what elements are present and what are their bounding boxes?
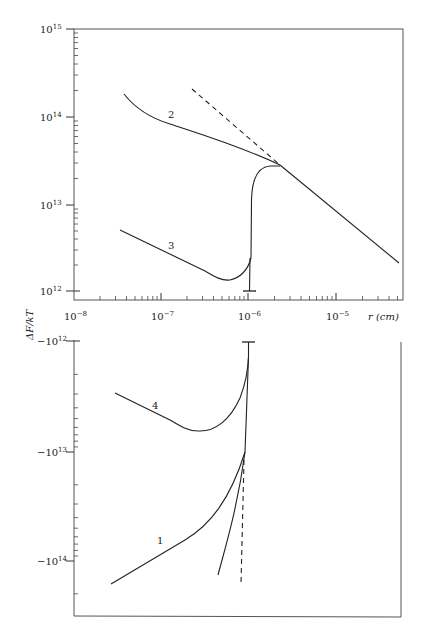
curve-label-1: 1 bbox=[157, 535, 163, 546]
curve-2 bbox=[124, 94, 280, 165]
lower-curves bbox=[111, 342, 255, 584]
x-tick-1e-8: 10−8 bbox=[64, 310, 87, 322]
x-tick-1e-6: 10−6 bbox=[238, 310, 262, 322]
curve-4 bbox=[115, 357, 249, 431]
dashed-asymptote-upper bbox=[192, 89, 280, 165]
curve-label-3: 3 bbox=[168, 240, 174, 251]
common-tail bbox=[280, 165, 399, 263]
upper-y-tick-labels: 1015 1014 1013 1012 bbox=[40, 23, 62, 297]
curve-3 bbox=[120, 166, 280, 280]
lower-y-minor-ticks bbox=[74, 374, 78, 593]
upper-y-minor-ticks bbox=[74, 33, 78, 265]
x-tick-labels: 10−8 10−7 10−6 10−5 r (cm) bbox=[64, 310, 399, 322]
upper-panel: 1015 1014 1013 1012 bbox=[40, 23, 403, 322]
x-axis-title: r (cm) bbox=[368, 311, 399, 322]
y-axis-title: ΔF/kT bbox=[24, 308, 35, 341]
upper-panel-frame bbox=[74, 29, 403, 300]
lower-bottom-axis bbox=[74, 616, 401, 617]
y-tick-neg-1e12: −1012 bbox=[37, 335, 67, 347]
lower-y-tick-labels: −1012 −1013 −1014 bbox=[37, 335, 68, 567]
y-tick-1e13: 1013 bbox=[40, 199, 62, 211]
y-tick-neg-1e13: −1013 bbox=[37, 446, 67, 458]
x-tick-1e-5: 10−5 bbox=[326, 310, 349, 322]
curve-1 bbox=[111, 452, 245, 584]
upper-curves bbox=[120, 89, 399, 291]
x-minor-ticks bbox=[100, 296, 398, 300]
steep-line bbox=[218, 452, 245, 575]
curve-3-cutoff bbox=[250, 258, 251, 291]
y-tick-1e12: 1012 bbox=[40, 285, 62, 297]
curve-label-2: 2 bbox=[168, 109, 174, 120]
y-tick-neg-1e14: −1014 bbox=[37, 555, 68, 567]
lower-panel: −1012 −1013 −1014 4 1 bbox=[37, 335, 401, 617]
curve-label-4: 4 bbox=[152, 400, 158, 411]
x-tick-1e-7: 10−7 bbox=[151, 310, 174, 322]
y-tick-1e14: 1014 bbox=[40, 111, 62, 123]
chart-figure: 1015 1014 1013 1012 bbox=[0, 0, 423, 631]
upper-y-major-ticks bbox=[66, 29, 80, 291]
y-tick-1e15: 1015 bbox=[40, 23, 62, 35]
